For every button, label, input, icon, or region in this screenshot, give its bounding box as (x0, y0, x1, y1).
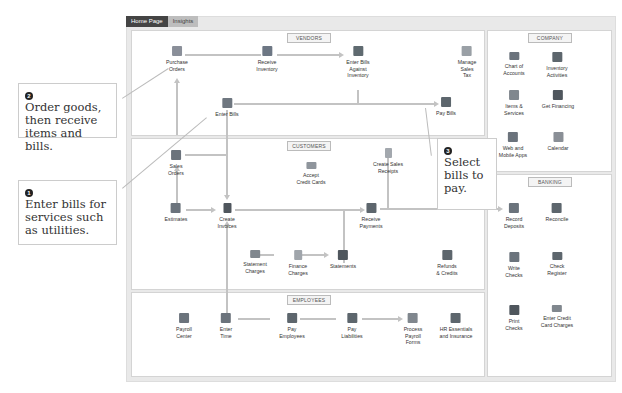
statement-charges-button[interactable]: StatementCharges (243, 250, 267, 274)
vendors-title: VENDORS (287, 33, 331, 43)
tab-bar: Home Page Insights (126, 16, 198, 27)
calendar-button[interactable]: Calendar (547, 132, 568, 152)
payroll-center-button[interactable]: PayrollCenter (176, 313, 192, 339)
chart-of-accounts-button[interactable]: Chart ofAccounts (503, 52, 524, 76)
purchase-order-icon (172, 46, 182, 56)
banking-title: BANKING (528, 177, 572, 187)
check-register-button[interactable]: CheckRegister (547, 252, 566, 276)
print-checks-button[interactable]: PrintChecks (505, 305, 522, 331)
tab-home-page[interactable]: Home Page (126, 16, 168, 27)
enter-bills-icon (222, 98, 232, 108)
pay-employees-icon (287, 313, 297, 323)
sales-tax-icon (462, 46, 472, 56)
create-sales-receipts-button[interactable]: Create SalesReceipts (373, 148, 403, 174)
record-deposits-icon (509, 203, 519, 213)
write-checks-button[interactable]: WriteChecks (505, 252, 522, 278)
web-mobile-apps-button[interactable]: Web andMobile Apps (499, 132, 527, 158)
company-title: COMPANY (528, 33, 572, 43)
process-payroll-forms-button[interactable]: ProcessPayrollForms (404, 313, 423, 346)
finance-charges-icon (294, 250, 302, 260)
credit-card-charges-icon (552, 305, 562, 312)
write-checks-icon (509, 252, 519, 262)
customers-title: CUSTOMERS (287, 141, 331, 151)
enter-bills-button[interactable]: Enter Bills (215, 98, 238, 118)
callout-select-bills: 3 Select bills to pay. (437, 138, 497, 210)
payroll-center-icon (179, 313, 189, 323)
callout-number: 1 (25, 189, 33, 197)
pay-bills-button[interactable]: Pay Bills (436, 97, 456, 117)
hr-essentials-button[interactable]: HR Essentialsand Insurance (440, 313, 473, 339)
record-deposits-button[interactable]: RecordDeposits (504, 203, 524, 229)
estimates-button[interactable]: Estimates (165, 203, 188, 223)
receive-payments-button[interactable]: ReceivePayments (359, 203, 382, 229)
print-checks-icon (509, 305, 519, 315)
employees-title: EMPLOYEES (287, 295, 331, 305)
callout-order-goods: 2 Order goods, then receive items and bi… (18, 83, 117, 138)
web-mobile-icon (508, 132, 518, 142)
pay-employees-button[interactable]: PayEmployees (279, 313, 305, 339)
refunds-icon (442, 250, 452, 260)
inventory-activities-button[interactable]: InventoryActivities (546, 52, 567, 78)
inventory-activities-icon (552, 52, 562, 62)
get-financing-icon (553, 90, 563, 100)
receive-payments-icon (366, 203, 376, 213)
enter-credit-card-charges-button[interactable]: Enter CreditCard Charges (541, 305, 573, 328)
invoice-icon (223, 203, 231, 213)
get-financing-button[interactable]: Get Financing (542, 90, 574, 110)
callout-number: 2 (25, 92, 33, 100)
sales-receipt-icon (385, 148, 392, 158)
pay-liabilities-icon (347, 313, 357, 323)
finance-charges-button[interactable]: FinanceCharges (288, 250, 308, 276)
payroll-forms-icon (408, 313, 418, 323)
pay-bills-icon (441, 97, 451, 107)
purchase-orders-button[interactable]: PurchaseOrders (166, 46, 188, 72)
items-services-icon (509, 90, 519, 100)
chart-accounts-icon (509, 52, 519, 60)
reconcile-icon (552, 203, 562, 213)
hr-essentials-icon (451, 313, 461, 323)
statements-icon (338, 250, 348, 260)
enter-bills-against-inventory-button[interactable]: Enter BillsAgainstInventory (346, 46, 369, 79)
statement-charges-icon (250, 250, 260, 258)
create-invoices-button[interactable]: CreateInvoices (217, 203, 236, 229)
estimates-icon (171, 203, 181, 213)
pay-liabilities-button[interactable]: PayLiabilities (341, 313, 362, 339)
enter-time-icon (221, 313, 231, 323)
receive-inventory-icon (262, 46, 272, 56)
manage-sales-tax-button[interactable]: ManageSalesTax (458, 46, 477, 79)
refunds-credits-button[interactable]: Refunds& Credits (436, 250, 457, 276)
statements-button[interactable]: Statements (330, 250, 356, 270)
callout-enter-bills: 1 Enter bills for services such as utili… (18, 180, 117, 245)
tab-insights[interactable]: Insights (168, 16, 199, 27)
credit-card-icon (306, 162, 316, 169)
sales-orders-icon (171, 150, 181, 160)
sales-orders-button[interactable]: SalesOrders (168, 150, 184, 176)
enter-time-button[interactable]: EnterTime (220, 313, 232, 339)
receive-inventory-button[interactable]: ReceiveInventory (256, 46, 277, 72)
items-services-button[interactable]: Items &Services (504, 90, 524, 116)
reconcile-button[interactable]: Reconcile (546, 203, 569, 223)
check-register-icon (552, 252, 562, 260)
bills-inventory-icon (353, 46, 363, 56)
accept-credit-cards-button[interactable]: AcceptCredit Cards (296, 162, 325, 185)
calendar-icon (553, 132, 563, 142)
callout-number: 3 (444, 147, 452, 155)
